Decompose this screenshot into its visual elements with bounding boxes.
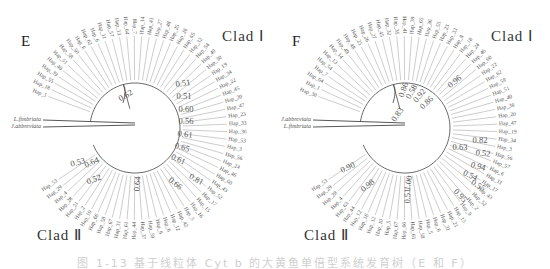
phylogenetic-trees: Hap_1Hap_18Hap_55Hap_39Hap_40Hap_51Hap_5… (0, 0, 550, 269)
panel-letter-f: F (292, 33, 300, 50)
leaf-label: Hap_58 (417, 220, 426, 239)
clade-2-label-f: Clad Ⅱ (304, 226, 349, 244)
leaf-label: Hap_53 (228, 136, 247, 144)
support-value: 0.56 (179, 116, 194, 126)
support-value: 0.51 (177, 91, 192, 101)
outgroup-label: J.abbreviata (11, 123, 41, 129)
leaf-label: Hap_5 (425, 219, 434, 235)
leaf-label: Hap_39 (408, 16, 415, 34)
outgroup-label: L.fimbriata (283, 123, 311, 129)
leaf-label: Hap_34 (498, 136, 517, 144)
leaf-label: Hap_19 (499, 128, 517, 135)
leaf-label: Hap_61 (122, 221, 130, 239)
support-value: 0.83 (389, 105, 406, 123)
support-value: 0.64 (131, 175, 142, 191)
leaf-label: Hap_33 (229, 120, 247, 127)
clade-1-label-e: Clad Ⅰ (222, 27, 264, 45)
support-value: 0.64 (83, 154, 101, 170)
support-value: 0.63 (453, 142, 468, 152)
tree-panel-f: Hap_30Hap_1Hap_64Hap_7Hap_54Hap_13Hap_14… (281, 16, 517, 240)
support-value: 0.82 (473, 135, 488, 145)
outgroup-label: L.fimbriata (13, 116, 41, 122)
support-value: 0.62 (117, 87, 135, 103)
leaf-label: Hap_61 (410, 221, 417, 239)
leaf-label: Hap_64 (123, 16, 131, 34)
figure-caption: 图 1-13 基于线粒体 Cyt b 的大黄鱼单倍型系统发育树（E 和 F） (0, 254, 550, 269)
leaf-label: Hap_37 (140, 221, 147, 239)
leaf-label: Hap_38 (496, 102, 515, 111)
leaf-label: Hap_47 (499, 120, 517, 127)
leaf-label: Hap_44 (131, 222, 137, 240)
support-value: 0.81 (188, 171, 206, 187)
leaf-label: Hap_66 (401, 222, 407, 240)
leaf-label: Hap_67 (392, 221, 400, 239)
clade-1-label-f: Clad Ⅰ (491, 27, 533, 45)
support-value: 0.61 (177, 128, 193, 140)
leaf-label: Hap_20 (498, 111, 517, 119)
leaf-label: Hap_23 (228, 111, 247, 119)
leaf-label: Hap_47 (226, 102, 245, 111)
outgroup-label: J.abbreviata (281, 116, 311, 122)
support-value: 0.98 (358, 177, 376, 194)
support-value: 0.96 (445, 73, 463, 90)
figure: Hap_1Hap_18Hap_55Hap_39Hap_40Hap_51Hap_5… (0, 0, 550, 269)
leaf-label: Hap_31 (113, 220, 122, 239)
leaf-label: Hap_41 (402, 16, 408, 34)
support-value: 0.52 (475, 147, 491, 158)
support-value: 0.51 (402, 188, 413, 203)
support-value: 0.51 (175, 77, 191, 89)
leaf-label: Hap_35 (393, 16, 401, 34)
leaf-label: Hap_36 (229, 128, 247, 135)
support-value: 0.60 (179, 104, 194, 114)
leaf-label: Hap_5 (383, 220, 391, 236)
support-value: 0.61 (170, 151, 188, 166)
clade-2-label-e: Clad Ⅱ (37, 226, 82, 244)
tree-panel-e: Hap_1Hap_18Hap_55Hap_39Hap_40Hap_51Hap_5… (11, 16, 247, 240)
leaf-label: Hap_59 (147, 220, 156, 239)
leaf-label: Hap_7 (132, 19, 138, 34)
leaf-label: Hap_9 (155, 219, 164, 235)
leaf-label: Hap_14 (138, 16, 145, 34)
support-value: 0.90 (339, 159, 357, 174)
panel-letter-e: E (21, 33, 30, 50)
support-value: 0.66 (167, 175, 185, 192)
